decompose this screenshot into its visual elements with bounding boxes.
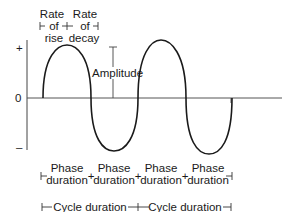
phase-label-1: Phase: [51, 162, 84, 174]
svg-text:of: of: [80, 20, 90, 32]
phase-label-4: Phase: [192, 162, 225, 174]
phase-label-3: Phase: [145, 162, 178, 174]
amplitude-label: Amplitude: [92, 67, 143, 79]
axis-label-positive: +: [16, 42, 23, 54]
svg-text:duration: duration: [187, 174, 229, 186]
phase-duration-row: Phase duration + Phase duration + Phase …: [41, 162, 232, 186]
svg-text:duration: duration: [46, 174, 88, 186]
cycle-label-2: Cycle duration: [148, 201, 222, 212]
phase-label-2: Phase: [98, 162, 131, 174]
cycle-label-1: Cycle duration: [53, 201, 127, 212]
svg-text:duration: duration: [93, 174, 135, 186]
svg-text:Rate: Rate: [40, 8, 64, 20]
svg-text:of: of: [49, 20, 59, 32]
waveform-curve: [43, 40, 232, 154]
axis-label-zero: 0: [15, 92, 21, 104]
cycle-duration-row: Cycle duration Cycle duration: [42, 201, 231, 212]
svg-text:rise: rise: [45, 32, 64, 44]
axis-label-negative: –: [16, 141, 23, 153]
svg-text:decay: decay: [69, 32, 100, 44]
svg-text:duration: duration: [140, 174, 182, 186]
waveform-diagram: + 0 – Rate of rise Rate of decay Amplitu…: [0, 0, 286, 212]
rate-of-decay-annotation: Rate of decay: [69, 8, 100, 44]
svg-text:Rate: Rate: [73, 8, 97, 20]
